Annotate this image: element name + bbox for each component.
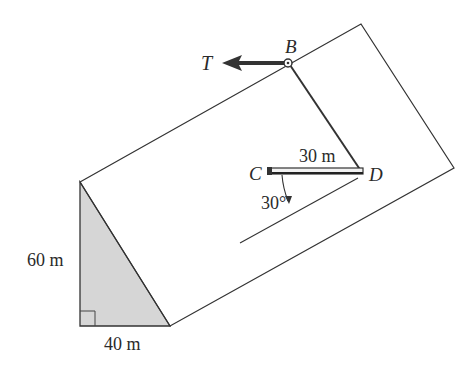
label-bar-length: 30 m	[299, 146, 336, 166]
label-base: 40 m	[104, 334, 141, 354]
label-t: T	[201, 52, 214, 74]
force-t-arrow	[222, 55, 285, 71]
label-d: D	[368, 164, 383, 185]
diagram-canvas: T B C D 30 m 30° 60 m 40 m	[0, 0, 465, 367]
label-angle: 30°	[261, 193, 286, 213]
label-b: B	[285, 36, 297, 57]
label-height: 60 m	[27, 250, 64, 270]
bar-cd	[267, 167, 363, 175]
reference-line	[240, 178, 358, 243]
label-c: C	[249, 163, 262, 184]
